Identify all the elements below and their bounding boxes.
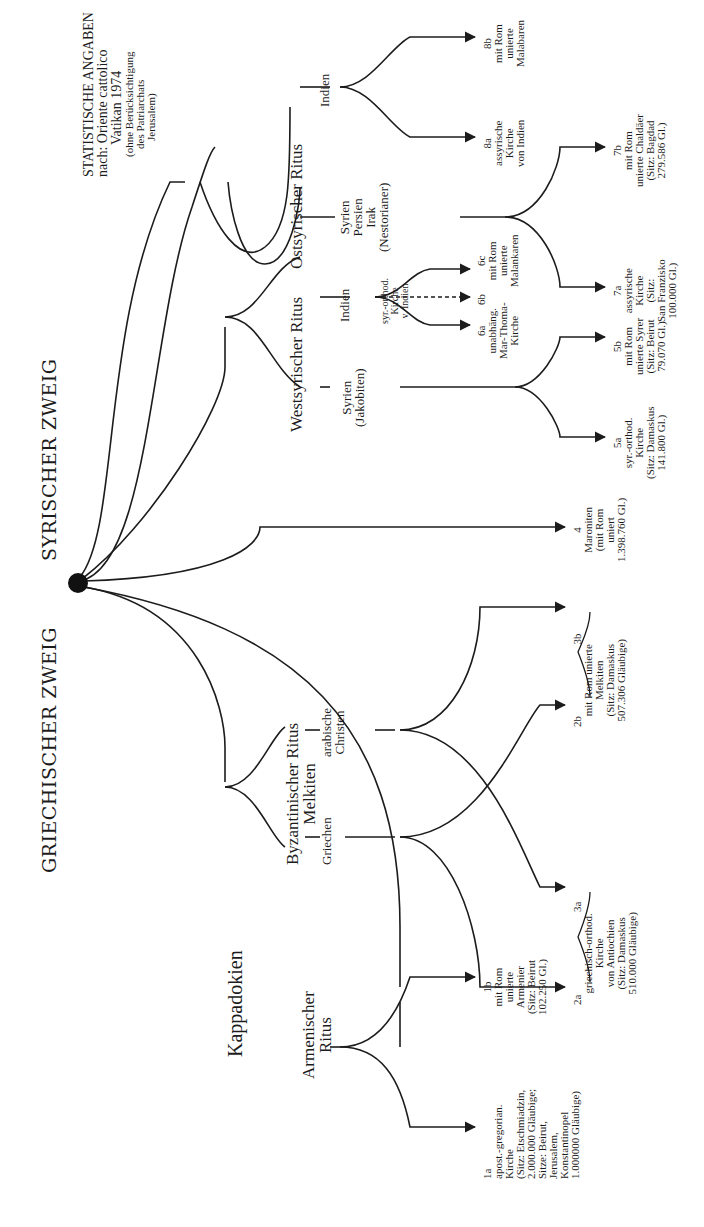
leaf-2a-3a-greek-orthodox: 2a 3a griechisch-orthod. Kirche von Anti… [572, 902, 638, 1005]
region-west-syria: Syrien (Jakobiten) [340, 369, 366, 427]
stats-source: nach: Oriente cattolico [96, 7, 110, 177]
region-greeks: Griechen [320, 817, 333, 865]
stats-note-3: Jerusalem) [146, 7, 157, 177]
region-west-india: Indien [338, 289, 351, 322]
leaf-5b-syrian-catholics: 5b mit Rom unierte Syrer (Sitz: Beirut 7… [612, 318, 667, 375]
leaf-7b-chaldeans: 7b mit Rom unierte Chaldäer (Sitz: Bagda… [612, 114, 667, 187]
region-arab-christians: arabische Christen [320, 708, 346, 757]
leaf-1b-armenian-catholics: 1b mit Rom unierte Armenier (Sitz: Beiru… [482, 959, 548, 1015]
leaf-6b-syro-orthodox-india: syr.-orthod. Kirche v. Indien [380, 278, 410, 324]
greek-branch-label: GRIECHISCHER ZWEIG [40, 627, 59, 873]
leaf-6a-mar-thoma: 6a unabhäng. Mar-Thoma- Kirche [476, 302, 520, 359]
leaf-7a-assyrian-church: 7a assyrische Kirche (Sitz: San Franzisk… [612, 259, 678, 322]
leaf-8a-assyrian-india: 8a assyrische Kirche von Indien [482, 120, 526, 167]
region-east-syria-persia-iraq: Syrien Persien Irak (Nestorianer) [338, 183, 390, 252]
syrian-branch-label: SYRISCHER ZWEIG [40, 359, 59, 562]
stats-place-year: Vatikan 1974 [110, 7, 124, 177]
root-node-dot [68, 573, 88, 593]
rite-west-syrian: Westsyrischer Ritus [288, 297, 305, 432]
rite-east-syrian: Ostsyrischer Ritus [288, 144, 305, 269]
leaf-6c-malankarese: 6c mit Rom unierte Malankaren [476, 234, 520, 287]
leaf-2b-3b-melkites: 2b 3b mit Rom unierte Melkiten (Sitz: Da… [572, 634, 627, 728]
region-east-india: Indien [318, 74, 331, 107]
leaf-8b-malabarese: 8b mit Rom unierte Malabaren [482, 20, 526, 67]
leaf-4-maronites: 4 Maroniten (mit Rom uniert 1.398.760 Gl… [572, 498, 627, 562]
stats-title: STATISTISCHE ANGABEN [82, 7, 96, 177]
stats-note-2: des Patriarchats [135, 7, 146, 177]
region-cappadocia: Kappadokien [225, 950, 245, 1057]
leaf-5a-syro-orthodox: 5a syr.-orthod. Kirche (Sitz: Damaskus 1… [612, 407, 667, 479]
rite-armenian: Armenischer Ritus [300, 991, 334, 1079]
church-family-tree-diagram: GRIECHISCHER ZWEIG SYRISCHER ZWEIG STATI… [0, 0, 704, 1227]
leaf-1a-apostolic-gregorian: 1a apost.-gregorian. Kirche (Sitz: Etsch… [482, 1089, 581, 1179]
rite-byzantine-melkites: Byzantinischer Ritus Melkiten [284, 723, 318, 865]
statistics-block: STATISTISCHE ANGABEN nach: Oriente catto… [82, 7, 157, 177]
